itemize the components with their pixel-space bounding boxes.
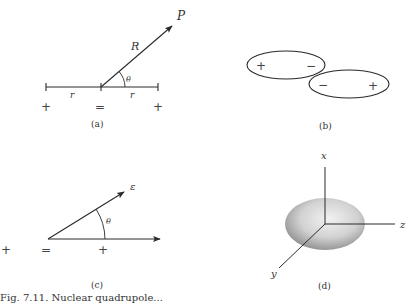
- ellipse-right-plus: +: [368, 79, 378, 93]
- ellipse-right-minus: −: [318, 78, 328, 92]
- panel-label-d: (d): [318, 281, 331, 291]
- panel-a: P R θ r r + = + (a): [41, 9, 186, 129]
- panel-label-c: (c): [91, 280, 103, 290]
- figure-caption: Fig. 7.11. Nuclear quadrupole...: [0, 292, 163, 303]
- charge-c-left: +: [1, 243, 11, 257]
- charge-c-right: +: [98, 243, 108, 257]
- angle-arc: [119, 72, 125, 88]
- panel-c: ε θ + = + (c): [1, 181, 160, 290]
- label-r-right: r: [130, 90, 135, 100]
- label-axis-x: x: [321, 150, 327, 161]
- field-vector-arrow: [48, 192, 124, 239]
- ellipse-left-minus: −: [306, 59, 316, 73]
- label-r-left: r: [70, 90, 75, 100]
- vector-R: [101, 26, 172, 87]
- panel-label-b: (b): [319, 121, 332, 131]
- angle-arc-c: [96, 209, 105, 239]
- charge-left: +: [41, 100, 51, 114]
- label-epsilon: ε: [130, 181, 135, 192]
- ellipse-left-plus: +: [256, 59, 266, 73]
- label-P: P: [176, 9, 186, 23]
- panel-b: + − − + (b): [247, 51, 389, 131]
- label-theta: θ: [126, 75, 131, 84]
- charge-right: +: [153, 100, 163, 114]
- panel-label-a: (a): [91, 119, 103, 129]
- label-axis-z: z: [399, 219, 406, 230]
- panel-d: x z y (d): [270, 150, 406, 291]
- label-axis-y: y: [270, 268, 277, 279]
- label-theta-c: θ: [106, 217, 111, 226]
- charge-c-center: =: [41, 243, 51, 257]
- label-R: R: [130, 40, 139, 53]
- charge-center: =: [95, 100, 105, 114]
